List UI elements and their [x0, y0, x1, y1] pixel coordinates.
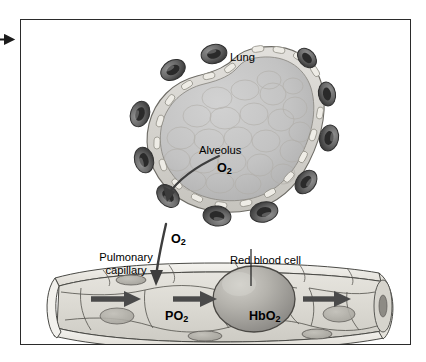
pulmonary-capillary-group [47, 224, 393, 344]
label-lung: Lung [230, 51, 255, 64]
label-hbo2-text: HbO [249, 309, 276, 323]
alveolus-group [127, 42, 341, 228]
label-o2-gap-text: O [171, 232, 181, 246]
endothelial-nucleus-body-2 [323, 306, 355, 322]
label-o2-alveolus-subscript: 2 [227, 166, 232, 176]
label-po2-text: PO [165, 309, 183, 323]
figure-page: Lung Alveolus O2 O2 Pulmonary capillary … [0, 0, 426, 362]
endothelial-nucleus-bottom-2 [302, 329, 332, 339]
label-pulmonary-capillary: Pulmonary capillary [84, 251, 168, 276]
label-o2-gap-subscript: 2 [181, 237, 186, 247]
label-pulmonary-capillary-line1: Pulmonary [84, 251, 168, 264]
label-o2-gap: O2 [171, 232, 186, 247]
label-pulmonary-capillary-line2: capillary [84, 264, 168, 277]
label-po2: PO2 [165, 309, 188, 324]
label-hbo2: HbO2 [249, 309, 281, 324]
endothelial-nucleus-top [116, 275, 146, 285]
figure-frame: Lung Alveolus O2 O2 Pulmonary capillary … [20, 19, 411, 345]
label-red-blood-cell: Red blood cell [230, 254, 301, 267]
label-o2-alveolus-text: O [217, 161, 227, 175]
label-hbo2-subscript: 2 [276, 314, 281, 324]
endothelial-nucleus-body [100, 308, 134, 324]
right-arrow-marker-icon [0, 33, 16, 47]
label-alveolus: Alveolus [199, 144, 241, 157]
anatomy-diagram [21, 20, 410, 344]
label-po2-subscript: 2 [183, 314, 188, 324]
endothelial-nucleus-bottom [188, 331, 222, 341]
capillary-right-nucleus [379, 295, 387, 317]
label-o2-alveolus: O2 [217, 161, 232, 176]
